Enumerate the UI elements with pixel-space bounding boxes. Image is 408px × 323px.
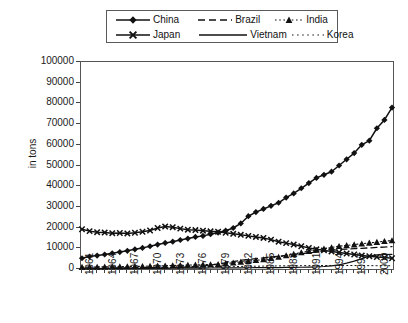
legend-label-japan: Japan [151, 30, 180, 40]
x-tick-mark [376, 269, 377, 273]
x-tick-label: 1967 [130, 253, 140, 275]
legend-swatch-brazil [197, 14, 233, 26]
legend-entry-india: India [274, 12, 328, 28]
data-point-marker [260, 206, 266, 212]
legend-label-korea: Korea [325, 30, 354, 40]
x-tick-mark [315, 269, 316, 273]
x-tick-label: 1994 [335, 253, 345, 275]
legend-row-1: China Brazil India [107, 12, 337, 28]
data-point-marker [185, 235, 191, 241]
x-tick-mark [232, 269, 233, 273]
x-tick-mark [353, 269, 354, 273]
x-tick-mark [119, 269, 120, 273]
y-tick-label: 70000 [18, 118, 74, 128]
x-tick-mark [225, 269, 226, 273]
data-point-marker [132, 246, 138, 252]
legend-swatch-japan [115, 29, 151, 41]
x-tick-mark [187, 269, 188, 273]
series-canvas [81, 62, 393, 269]
legend-label-brazil: Brazil [233, 15, 260, 25]
legend-entry-vietnam: Vietnam [198, 27, 287, 43]
x-tick-mark [383, 269, 384, 273]
legend-label-china: China [151, 15, 179, 25]
y-tick-label: 50000 [18, 160, 74, 170]
y-tick-label: 40000 [18, 180, 74, 190]
data-point-marker [155, 241, 161, 247]
data-point-marker [162, 240, 168, 246]
x-tick-label: 1976 [198, 253, 208, 275]
x-tick-mark [361, 269, 362, 273]
legend-label-india: India [304, 15, 328, 25]
y-tick-label: 10000 [18, 242, 74, 252]
series-china [79, 104, 395, 261]
x-tick-mark [368, 269, 369, 273]
y-tick-label: 0 [18, 263, 74, 273]
series-line [82, 108, 392, 259]
x-tick-mark [81, 269, 82, 273]
x-tick-label: 1991 [312, 253, 322, 275]
data-point-marker [253, 209, 259, 215]
chart-figure: China Brazil India [0, 0, 408, 323]
x-tick-mark [346, 269, 347, 273]
legend-entry-china: China [115, 12, 179, 28]
data-point-marker [147, 243, 153, 249]
x-tick-mark [194, 269, 195, 273]
x-tick-mark [104, 269, 105, 273]
legend-swatch-vietnam [198, 29, 248, 41]
x-tick-mark [126, 269, 127, 273]
data-point-marker [366, 240, 373, 246]
legend-entry-japan: Japan [115, 27, 180, 43]
legend-entry-korea: Korea [291, 27, 354, 43]
x-tick-label: 1982 [244, 253, 254, 275]
x-tick-mark [202, 269, 203, 273]
y-tick-label: 60000 [18, 139, 74, 149]
x-tick-mark [270, 269, 271, 273]
legend-swatch-korea [291, 29, 325, 41]
x-tick-label: 1964 [108, 253, 118, 275]
x-tick-mark [217, 269, 218, 273]
x-tick-mark [338, 269, 339, 273]
x-tick-mark [96, 269, 97, 273]
x-tick-label: 1973 [176, 253, 186, 275]
x-tick-label: 1970 [153, 253, 163, 275]
x-tick-mark [149, 269, 150, 273]
x-tick-mark [300, 269, 301, 273]
x-tick-mark [391, 269, 392, 273]
x-tick-mark [247, 269, 248, 273]
x-tick-mark [210, 269, 211, 273]
data-point-marker [321, 172, 327, 178]
x-tick-mark [308, 269, 309, 273]
x-tick-mark [157, 269, 158, 273]
x-tick-mark [141, 269, 142, 273]
series-japan [79, 224, 394, 261]
x-tick-mark [331, 269, 332, 273]
data-point-marker [139, 245, 145, 251]
x-tick-mark [89, 269, 90, 273]
legend-row-2: Japan Vietnam Korea [107, 27, 337, 43]
plot-area [80, 61, 394, 270]
x-tick-label: 2000 [380, 253, 390, 275]
data-point-marker [374, 239, 381, 245]
x-tick-mark [172, 269, 173, 273]
data-point-marker [268, 203, 274, 209]
legend-label-vietnam: Vietnam [248, 30, 287, 40]
x-tick-mark [111, 269, 112, 273]
data-point-marker [381, 238, 388, 244]
x-tick-mark [278, 269, 279, 273]
x-tick-mark [179, 269, 180, 273]
chart-legend: China Brazil India [106, 10, 338, 43]
y-tick-label: 30000 [18, 201, 74, 211]
data-point-marker [177, 237, 183, 243]
x-tick-mark [240, 269, 241, 273]
legend-entry-brazil: Brazil [197, 12, 260, 28]
x-tick-label: 1997 [357, 253, 367, 275]
y-tick-label: 20000 [18, 222, 74, 232]
x-tick-mark [323, 269, 324, 273]
y-tick-label: 80000 [18, 97, 74, 107]
x-tick-mark [262, 269, 263, 273]
x-tick-label: 1985 [266, 253, 276, 275]
data-point-marker [170, 239, 176, 245]
legend-swatch-china [115, 14, 151, 26]
x-tick-mark [293, 269, 294, 273]
x-tick-label: 1979 [221, 253, 231, 275]
